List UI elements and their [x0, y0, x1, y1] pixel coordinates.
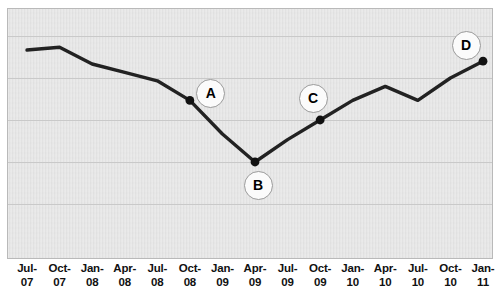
x-tick-year: 11	[461, 276, 500, 290]
x-tick-month: Jan-	[461, 262, 500, 276]
callout-badge-b[interactable]: B	[244, 171, 273, 200]
callout-badge-d[interactable]: D	[452, 31, 481, 60]
data-point-marker	[479, 57, 488, 66]
callout-badge-label: D	[461, 37, 471, 53]
chart-screenshot: ABCD Jul-07Oct-07Jan-08Apr-08Jul-08Oct-0…	[0, 0, 500, 303]
data-point-marker	[251, 158, 260, 167]
callout-badge-label: B	[253, 177, 263, 193]
x-axis-tick-label: Jan-11	[461, 262, 500, 289]
chart-plot-area: ABCD	[7, 8, 493, 259]
callout-badge-label: C	[308, 90, 318, 106]
data-point-marker	[316, 116, 325, 125]
data-line-group	[27, 47, 483, 162]
callout-badge-c[interactable]: C	[299, 84, 328, 113]
data-line	[27, 47, 483, 162]
data-point-marker	[185, 96, 194, 105]
x-axis-tick-labels: Jul-07Oct-07Jan-08Apr-08Jul-08Oct-08Jan-…	[7, 262, 493, 302]
line-chart-svg	[8, 9, 492, 258]
callout-badge-label: A	[206, 85, 216, 101]
